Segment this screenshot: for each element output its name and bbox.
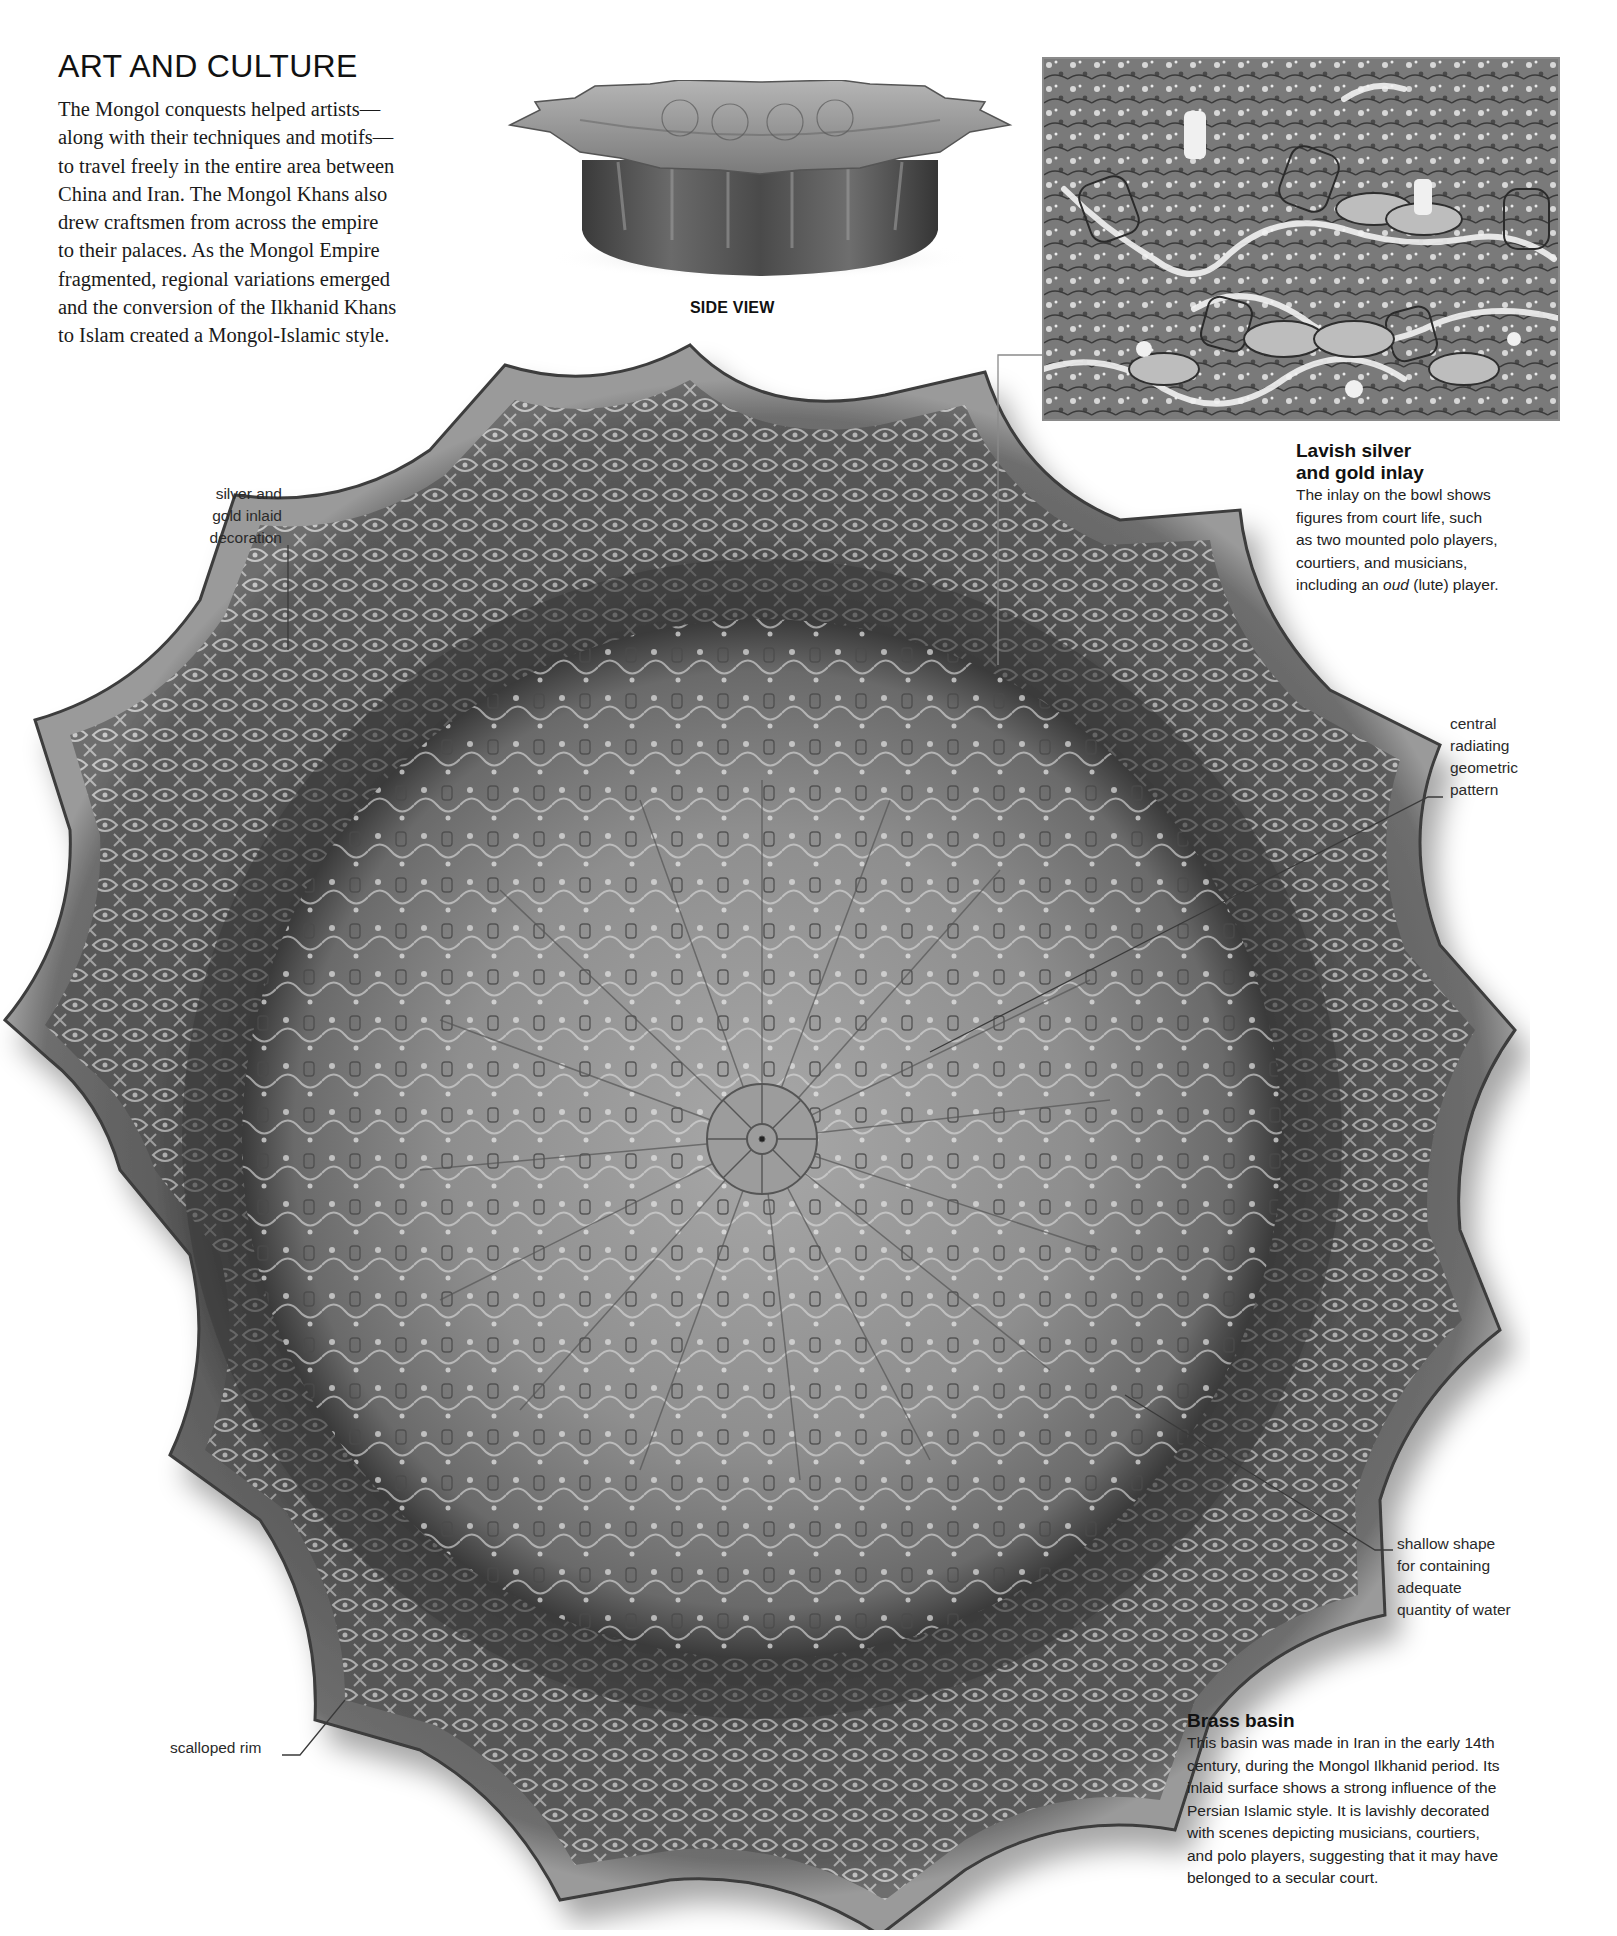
annotation-line: geometric [1450, 757, 1518, 779]
annotation-scalloped-rim: scalloped rim [170, 1737, 261, 1759]
brass-caption-body: This basin was made in Iran in the early… [1187, 1732, 1567, 1890]
basin-side-view-image [500, 80, 1020, 280]
intro-line: along with their techniques and motifs— [58, 123, 458, 151]
side-view-caption: SIDE VIEW [690, 299, 774, 317]
brass-basin-image [0, 330, 1530, 1930]
annotation-line: adequate [1397, 1577, 1511, 1599]
brass-body-line: century, during the Mongol Ilkhanid peri… [1187, 1755, 1567, 1778]
page: ART AND CULTURE The Mongol conquests hel… [0, 0, 1617, 1936]
section-title: ART AND CULTURE [58, 48, 358, 85]
brass-body-line: This basin was made in Iran in the early… [1187, 1732, 1567, 1755]
intro-line: China and Iran. The Mongol Khans also [58, 180, 458, 208]
intro-line: to their palaces. As the Mongol Empire [58, 236, 458, 264]
intro-line: to travel freely in the entire area betw… [58, 152, 458, 180]
annotation-central-pattern: central radiating geometric pattern [1450, 713, 1518, 801]
annotation-line: quantity of water [1397, 1599, 1511, 1621]
annotation-line: shallow shape [1397, 1533, 1511, 1555]
annotation-line: silver and [170, 483, 282, 505]
intro-line: drew craftsmen from across the empire [58, 208, 458, 236]
intro-line: The Mongol conquests helped artists— [58, 95, 458, 123]
annotation-line: decoration [170, 527, 282, 549]
brass-body-line: belonged to a secular court. [1187, 1867, 1567, 1890]
annotation-line: gold inlaid [170, 505, 282, 527]
annotation-line: central [1450, 713, 1518, 735]
annotation-shallow-shape: shallow shape for containing adequate qu… [1397, 1533, 1511, 1621]
brass-body-line: Persian Islamic style. It is lavishly de… [1187, 1800, 1567, 1823]
brass-basin-caption: Brass basin This basin was made in Iran … [1187, 1710, 1567, 1890]
intro-line: fragmented, regional variations emerged [58, 265, 458, 293]
brass-caption-heading: Brass basin [1187, 1710, 1567, 1732]
brass-body-line: and polo players, suggesting that it may… [1187, 1845, 1567, 1868]
annotation-line: radiating [1450, 735, 1518, 757]
intro-paragraph: The Mongol conquests helped artists— alo… [58, 95, 458, 350]
brass-body-line: inlaid surface shows a strong influence … [1187, 1777, 1567, 1800]
annotation-line: for containing [1397, 1555, 1511, 1577]
annotation-silver-gold-inlaid: silver and gold inlaid decoration [170, 483, 282, 549]
annotation-line: pattern [1450, 779, 1518, 801]
intro-line: and the conversion of the Ilkhanid Khans [58, 293, 458, 321]
brass-body-line: with scenes depicting musicians, courtie… [1187, 1822, 1567, 1845]
